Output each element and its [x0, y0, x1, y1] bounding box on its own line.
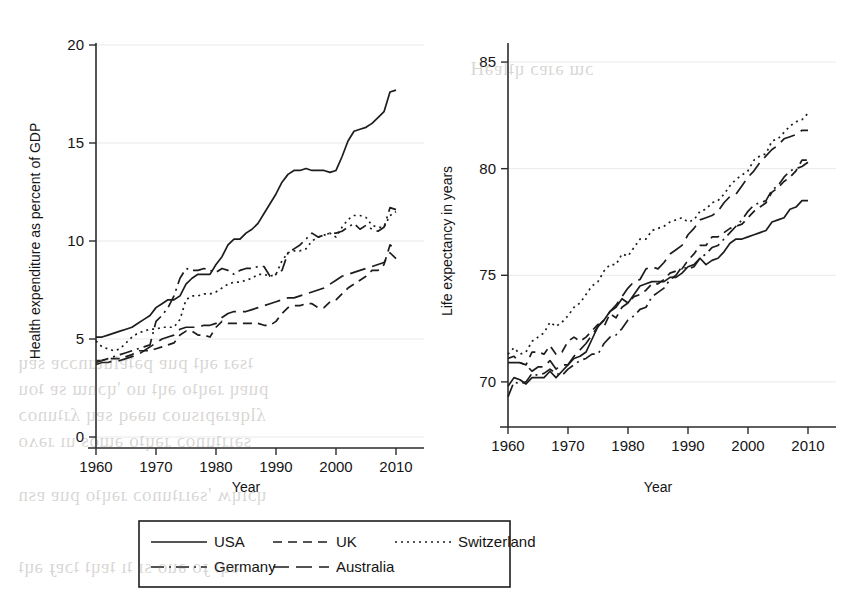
legend-label-switzerland: Switzerland — [458, 533, 536, 550]
series-line-usa — [508, 201, 808, 387]
charts-svg-root: 05101520196019701980199020002010Health e… — [0, 0, 849, 613]
y-tick-label-5: 5 — [76, 330, 84, 347]
series-line-switzerland — [508, 113, 808, 354]
legend-label-uk: UK — [336, 533, 357, 550]
series-line-australia — [508, 130, 808, 371]
x-tick-label-1960: 1960 — [79, 458, 112, 475]
x-axis-title: Year — [232, 479, 261, 495]
x-tick-label-1980: 1980 — [611, 437, 644, 454]
x-tick-label-1990: 1990 — [671, 437, 704, 454]
y-tick-label-0: 0 — [76, 428, 84, 445]
y-tick-label-75: 75 — [479, 266, 496, 283]
series-line-usa — [96, 90, 396, 337]
series-line-uk — [508, 160, 808, 365]
y-tick-label-20: 20 — [67, 36, 84, 53]
x-tick-label-2000: 2000 — [319, 458, 352, 475]
x-axis-title: Year — [644, 479, 673, 495]
legend-label-usa: USA — [214, 533, 245, 550]
series-line-australia — [96, 253, 396, 365]
legend-border — [139, 521, 510, 587]
y-axis-title: Health expenditure as percent of GDP — [27, 123, 43, 360]
x-tick-label-1990: 1990 — [259, 458, 292, 475]
series-line-germany — [508, 162, 808, 397]
x-tick-label-1970: 1970 — [551, 437, 584, 454]
y-axis-title: Life expectancy in years — [439, 166, 455, 316]
y-tick-label-15: 15 — [67, 134, 84, 151]
y-tick-label-70: 70 — [479, 373, 496, 390]
figure-panel: ɔɯ ǝɹɐɔ ɥʇlɐǝH ʇsǝɹ ǝɥʇ puɐ pǝʇɐluɯnɔɔɐ … — [0, 0, 849, 613]
x-tick-label-2000: 2000 — [731, 437, 764, 454]
left-panel-health-expenditure: 05101520196019701980199020002010Health e… — [27, 36, 424, 495]
legend-group: USAUKSwitzerlandGermanyAustralia — [139, 521, 536, 587]
x-tick-label-2010: 2010 — [379, 458, 412, 475]
legend-label-australia: Australia — [336, 558, 395, 575]
y-tick-label-85: 85 — [479, 53, 496, 70]
x-tick-label-1960: 1960 — [491, 437, 524, 454]
right-panel-life-expectancy: 70758085196019701980199020002010Life exp… — [439, 43, 836, 495]
y-tick-label-80: 80 — [479, 160, 496, 177]
x-tick-label-1970: 1970 — [139, 458, 172, 475]
legend-label-germany: Germany — [214, 558, 276, 575]
series-line-uk — [96, 245, 396, 361]
y-tick-label-10: 10 — [67, 232, 84, 249]
x-tick-label-2010: 2010 — [791, 437, 824, 454]
x-tick-label-1980: 1980 — [199, 458, 232, 475]
